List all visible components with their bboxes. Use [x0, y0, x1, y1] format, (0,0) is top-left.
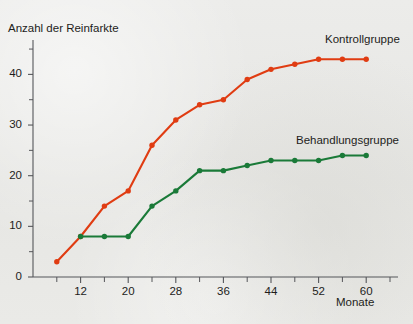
x-tick-label: 12 [68, 285, 94, 297]
x-tick-label: 28 [163, 285, 189, 297]
data-point [149, 143, 154, 148]
data-point [197, 168, 202, 173]
data-point [364, 57, 369, 62]
data-point [316, 57, 321, 62]
data-point [268, 158, 273, 163]
data-point [126, 188, 131, 193]
y-tick-label: 0 [0, 270, 22, 282]
data-point [340, 153, 345, 158]
y-tick-label: 10 [0, 219, 22, 231]
y-tick-label: 20 [0, 169, 22, 181]
series-layer [54, 57, 369, 265]
y-tick-label: 40 [0, 67, 22, 79]
axis-ticks [28, 49, 390, 283]
data-point [149, 203, 154, 208]
x-tick-label: 36 [210, 285, 236, 297]
data-point [316, 158, 321, 163]
data-point [173, 117, 178, 122]
data-point [364, 153, 369, 158]
plot-area [0, 0, 413, 324]
data-point [173, 188, 178, 193]
data-point [221, 97, 226, 102]
data-point [245, 163, 250, 168]
data-point [340, 57, 345, 62]
data-point [54, 259, 59, 264]
x-tick-label: 44 [258, 285, 284, 297]
x-tick-label: 60 [353, 285, 379, 297]
data-point [292, 62, 297, 67]
reinfarction-line-chart: Anzahl der Reinfarkte Monate Kontrollgru… [0, 0, 413, 324]
x-tick-label: 20 [115, 285, 141, 297]
axis-lines [33, 40, 398, 277]
data-point [245, 77, 250, 82]
y-tick-label: 30 [0, 118, 22, 130]
data-point [126, 234, 131, 239]
data-point [292, 158, 297, 163]
data-point [102, 234, 107, 239]
data-point [221, 168, 226, 173]
data-point [102, 203, 107, 208]
data-point [78, 234, 83, 239]
x-tick-label: 52 [306, 285, 332, 297]
data-point [268, 67, 273, 72]
data-point [197, 102, 202, 107]
